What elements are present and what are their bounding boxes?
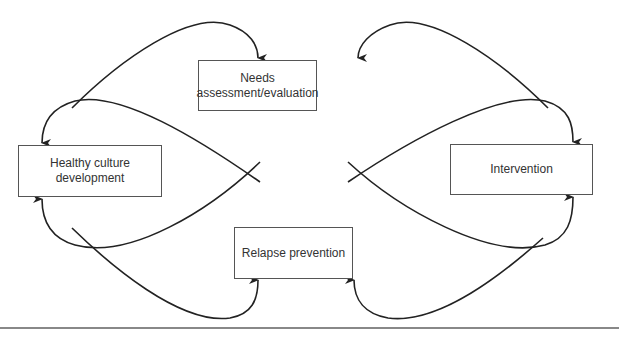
node-label: Intervention xyxy=(490,162,553,177)
bottom-divider xyxy=(0,327,619,329)
arrow-intervention-to-needs xyxy=(358,22,548,108)
node-needs-assessment: Needs assessment/evaluation xyxy=(198,60,317,111)
node-label-line1: Healthy culture xyxy=(50,156,130,171)
node-intervention: Intervention xyxy=(450,144,593,195)
node-healthy-culture: Healthy culture development xyxy=(18,145,162,197)
node-label-line1: Needs xyxy=(240,71,275,86)
arrow-intervention-to-relapse xyxy=(354,238,543,319)
node-label-line2: assessment/evaluation xyxy=(196,86,318,101)
node-label-line2: development xyxy=(56,171,125,186)
node-label: Relapse prevention xyxy=(242,246,345,261)
arrow-healthy-to-relapse xyxy=(72,228,258,319)
node-relapse-prevention: Relapse prevention xyxy=(234,227,353,279)
